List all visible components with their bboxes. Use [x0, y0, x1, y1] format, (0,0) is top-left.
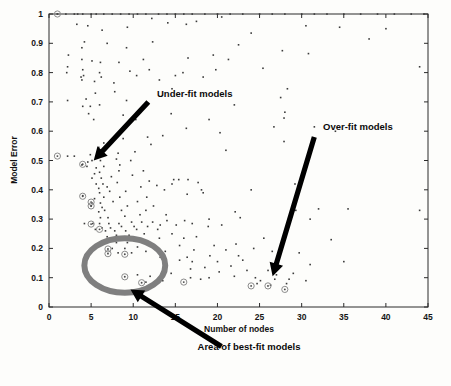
highlighted-point-core — [56, 13, 58, 15]
data-point — [230, 265, 232, 267]
data-point — [119, 164, 121, 166]
data-point — [339, 26, 341, 28]
data-point — [74, 13, 76, 15]
data-point — [77, 13, 79, 15]
data-point — [99, 171, 101, 173]
data-point — [125, 191, 127, 193]
scatter-plot-figure: 051015202530354045 00.10.20.30.40.50.60.… — [0, 0, 451, 386]
data-point — [82, 106, 84, 108]
data-point — [165, 214, 167, 216]
data-point — [158, 13, 160, 15]
data-point — [118, 170, 120, 172]
data-point — [242, 13, 244, 15]
data-point — [166, 13, 168, 15]
highlighted-point-core — [284, 288, 286, 290]
data-point — [126, 47, 128, 49]
data-point — [170, 273, 172, 275]
data-point — [184, 220, 186, 222]
data-point — [347, 208, 349, 210]
data-point — [100, 177, 102, 179]
data-point — [183, 237, 185, 239]
data-point — [86, 166, 88, 168]
data-point — [152, 221, 154, 223]
data-point — [186, 193, 188, 195]
data-point — [217, 261, 219, 263]
x-tick-label: 35 — [339, 312, 349, 322]
data-point — [102, 183, 104, 185]
data-point — [385, 28, 387, 30]
data-point — [85, 98, 87, 100]
data-point — [225, 150, 227, 152]
x-tick-label: 20 — [213, 312, 223, 322]
data-point — [190, 268, 192, 270]
x-tick-label: 30 — [297, 312, 307, 322]
data-point — [130, 160, 132, 162]
data-point — [84, 41, 86, 43]
data-point — [113, 82, 115, 84]
highlighted-point-core — [107, 248, 109, 250]
data-point — [159, 237, 161, 239]
data-point — [235, 243, 237, 245]
data-point — [343, 261, 345, 263]
data-point — [196, 236, 198, 238]
data-point — [186, 128, 188, 130]
y-tick-label: 0 — [38, 302, 43, 312]
data-point — [147, 136, 149, 138]
data-point — [143, 59, 145, 61]
data-point — [91, 60, 93, 62]
y-tick-label: 1 — [38, 9, 43, 19]
data-point — [90, 154, 92, 156]
data-point — [228, 59, 230, 61]
data-point — [95, 13, 97, 15]
highlighted-point-core — [141, 282, 143, 284]
data-point — [157, 229, 159, 231]
data-point — [141, 221, 143, 223]
data-point — [95, 183, 97, 185]
data-point — [178, 179, 180, 181]
data-point — [111, 176, 113, 178]
data-point — [330, 239, 332, 241]
data-point — [360, 13, 362, 15]
data-point — [309, 218, 311, 220]
y-tick-label: 0.3 — [31, 214, 43, 224]
data-point — [287, 88, 289, 90]
data-point — [76, 24, 78, 26]
data-point — [82, 13, 84, 15]
data-point — [122, 138, 124, 140]
data-point — [234, 211, 236, 213]
x-tick-label: 45 — [423, 312, 433, 322]
data-point — [87, 25, 89, 27]
data-point — [318, 208, 320, 210]
data-point — [95, 167, 97, 169]
data-point — [286, 283, 288, 285]
data-point — [164, 189, 166, 191]
data-point — [103, 196, 105, 198]
data-point — [117, 152, 119, 154]
data-point — [91, 177, 93, 179]
data-point — [90, 106, 92, 108]
y-tick-label: 0.8 — [31, 68, 43, 78]
data-point — [137, 201, 139, 203]
data-point — [202, 76, 204, 78]
data-point — [93, 119, 95, 121]
data-point — [110, 227, 112, 229]
data-point — [143, 170, 145, 172]
highlighted-point-core — [124, 276, 126, 278]
data-point — [90, 13, 92, 15]
data-point — [273, 126, 275, 128]
data-point — [134, 151, 136, 153]
data-point — [120, 13, 122, 15]
highlighted-point-core — [107, 253, 109, 255]
y-tick-label: 0.6 — [31, 126, 43, 136]
data-point — [308, 53, 310, 55]
data-point — [116, 158, 118, 160]
data-point — [131, 221, 133, 223]
data-point — [100, 76, 102, 78]
highlighted-point-core — [82, 195, 84, 197]
data-point — [295, 210, 297, 212]
data-point — [136, 75, 138, 77]
data-point — [119, 196, 121, 198]
data-point — [170, 113, 172, 115]
x-tick-label: 10 — [128, 312, 138, 322]
data-point — [100, 217, 102, 219]
